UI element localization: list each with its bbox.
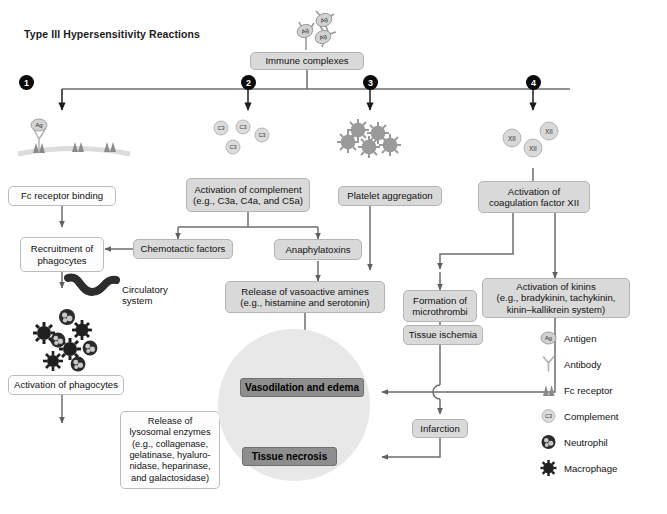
- box-activation-coagulation-factor-xii: Activation of coagulation factor XII: [478, 181, 590, 213]
- svg-text:C3: C3: [545, 413, 552, 419]
- complement-icon: C3: [540, 408, 557, 424]
- svg-text:Ag: Ag: [545, 335, 552, 341]
- legend-item-antigen: Ag Antigen: [540, 330, 597, 346]
- box-fc-receptor-binding: Fc receptor binding: [8, 186, 116, 206]
- svg-text:C3: C3: [258, 132, 265, 138]
- svg-text:Ag: Ag: [35, 122, 42, 128]
- figure-caption: [8, 505, 658, 514]
- box-vasodilation-and-edema: Vasodilation and edema: [240, 378, 364, 397]
- box-recruitment-of-phagocytes: Recruitment of phagocytes: [20, 237, 104, 272]
- legend-label: Macrophage: [564, 463, 617, 474]
- phagocyte-cell-cluster-icon: [12, 300, 130, 372]
- legend-label: Fc receptor: [564, 385, 613, 396]
- step-marker-3: 3: [363, 75, 378, 90]
- svg-text:C3: C3: [217, 125, 224, 131]
- box-platelet-aggregation: Platelet aggregation: [338, 186, 442, 206]
- box-formation-of-microthrombi: Formation of microthrombi: [403, 290, 477, 322]
- legend: Ag Antigen Antibody Fc receptor: [540, 330, 664, 466]
- box-activation-of-complement: Activation of complement (e.g., C3a, C4a…: [186, 178, 310, 212]
- step-marker-2: 2: [241, 75, 256, 90]
- legend-item-antibody: Antibody: [540, 356, 601, 372]
- legend-item-fc-receptor: Fc receptor: [540, 382, 613, 398]
- box-anaphylatoxins: Anaphylatoxins: [274, 239, 362, 260]
- antigen-icon: Ag: [540, 330, 557, 346]
- fc-receptor-icon: [540, 382, 557, 398]
- complement-c3-icon-cluster: C3 C3 C3 C3: [208, 118, 288, 162]
- factor-xii-icon-cluster: XII XII XII: [498, 118, 578, 166]
- legend-item-complement: C3 Complement: [540, 408, 618, 424]
- box-chemotactic-factors: Chemotactic factors: [133, 239, 233, 259]
- legend-item-neutrophil: Neutrophil: [540, 434, 608, 450]
- box-tissue-ischemia: Tissue ischemia: [403, 325, 483, 345]
- legend-label: Complement: [564, 411, 618, 422]
- svg-text:XII: XII: [545, 128, 553, 135]
- diagram-canvas: Type III Hypersensitivity Reactions Ag A…: [0, 0, 667, 514]
- legend-item-macrophage: Macrophage: [540, 460, 617, 476]
- page-title: Type III Hypersensitivity Reactions: [24, 28, 200, 40]
- fc-receptor-surface-icon: Ag: [14, 112, 134, 160]
- box-vasoactive-amines: Release of vasoactive amines (e.g., hist…: [225, 281, 385, 313]
- svg-text:C3: C3: [229, 144, 236, 150]
- platelet-aggregate-icon: [336, 116, 408, 164]
- step-marker-1: 1: [19, 75, 34, 90]
- svg-text:C3: C3: [239, 124, 246, 130]
- svg-text:XII: XII: [508, 135, 516, 142]
- neutrophil-icon: [540, 434, 557, 450]
- box-activation-of-phagocytes: Activation of phagocytes: [8, 375, 124, 395]
- box-activation-of-kinins: Activation of kinins (e.g., bradykinin, …: [482, 278, 630, 318]
- legend-label: Antigen: [564, 333, 597, 344]
- legend-label: Antibody: [564, 359, 601, 370]
- immune-complex-icon-cluster: Ag Ag Ag: [276, 6, 346, 54]
- box-immune-complexes: Immune complexes: [250, 52, 364, 70]
- antibody-icon: [540, 356, 557, 372]
- box-tissue-necrosis: Tissue necrosis: [242, 447, 337, 466]
- svg-text:XII: XII: [529, 145, 537, 152]
- macrophage-icon: [540, 460, 557, 476]
- legend-label: Neutrophil: [564, 437, 608, 448]
- step-marker-4: 4: [526, 75, 541, 90]
- box-lysosomal-enzymes: Release of lysosomal enzymes (e.g., coll…: [120, 411, 220, 489]
- box-infarction: Infarction: [412, 419, 468, 438]
